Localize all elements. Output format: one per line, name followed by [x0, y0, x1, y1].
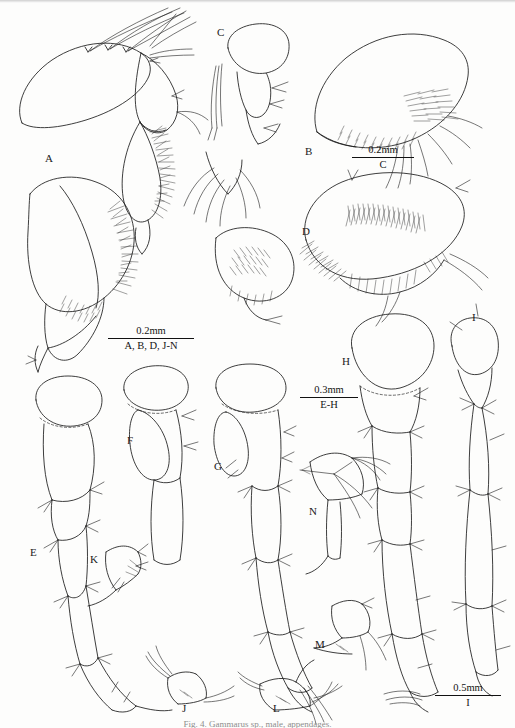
panel-l-drawing [238, 660, 422, 724]
panel-i-drawing [450, 304, 510, 696]
panel-j-drawing [146, 646, 234, 704]
panel-label-f: F [127, 434, 133, 446]
scale-bar-abdjn-rule [108, 338, 194, 339]
panel-label-i: I [472, 311, 476, 323]
scale-bar-c-value: 0.2mm [352, 144, 414, 156]
panel-label-k: K [90, 553, 98, 565]
scale-bar-c-rule [352, 157, 414, 158]
panel-label-m: M [315, 638, 325, 650]
panel-label-h: H [342, 355, 350, 367]
scale-bar-eh-value: 0.3mm [300, 384, 358, 396]
panel-label-g: G [214, 460, 222, 472]
scale-bar-abdjn-value: 0.2mm [108, 325, 194, 337]
panel-a-drawing [20, 8, 208, 372]
panel-label-n: N [309, 505, 317, 517]
scale-bar-eh: 0.3mm E-H [300, 384, 358, 411]
scale-bar-eh-ids: E-H [300, 399, 358, 411]
figure-plate: .s { fill:none; stroke:#1b1b1b; stroke-w… [0, 0, 515, 728]
panel-label-d: D [302, 225, 310, 237]
panel-d-drawing [300, 170, 488, 326]
panel-label-b: B [305, 145, 313, 157]
scale-bar-c: 0.2mm C [352, 144, 414, 171]
panel-label-c: C [217, 26, 225, 38]
scale-bar-i: 0.5mm I [435, 682, 501, 709]
scale-bar-i-rule [435, 695, 501, 696]
panel-m-drawing [314, 598, 386, 670]
scale-bar-i-value: 0.5mm [435, 682, 501, 694]
panel-label-l: L [273, 702, 280, 714]
panel-f-drawing [124, 366, 198, 565]
scale-bar-i-ids: I [435, 697, 501, 709]
plate-linework: .s { fill:none; stroke:#1b1b1b; stroke-w… [0, 0, 515, 728]
figure-caption: Fig. 4. Gammarus sp., male, appendages. [0, 719, 515, 728]
scale-bar-eh-rule [300, 397, 358, 398]
scale-bar-abdjn: 0.2mm A, B, D, J-N [108, 325, 194, 352]
scale-bar-abdjn-ids: A, B, D, J-N [108, 340, 194, 352]
panel-c-drawing [184, 24, 294, 324]
panel-label-e: E [30, 546, 37, 558]
panel-g-drawing [214, 364, 312, 712]
panel-label-a: A [45, 152, 53, 164]
panel-label-j: J [182, 702, 186, 714]
scale-bar-c-ids: C [352, 159, 414, 171]
